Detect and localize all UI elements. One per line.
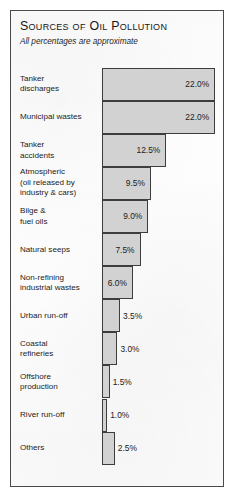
bar-value-label: 3.5% [123,311,142,321]
bar-value-label: 12.5% [137,145,161,155]
bar: 3.5% [102,299,120,332]
bar-row: Coastalrefineries3.0% [11,332,224,365]
bar-category-label: Atmospheric(oil released byindustry & ca… [20,168,100,199]
chart-title: Sources of Oil Pollution [20,19,167,33]
bar: 22.0% [102,68,215,101]
bar-category-label: Non-refiningindustrial wastes [20,272,100,293]
bar-value-label: 22.0% [185,79,209,89]
bar-row: Municipal wastes22.0% [11,101,224,134]
bar-row: Tankerdischarges22.0% [11,68,224,101]
chart-card: Sources of Oil Pollution All percentages… [10,10,224,487]
bar-value-label: 1.5% [113,377,132,387]
bar-value-label: 7.5% [115,245,134,255]
bar-row: Urban run-off3.5% [11,299,224,332]
bar: 12.5% [102,134,166,167]
bar: 9.0% [102,200,148,233]
bar: 9.5% [102,167,151,200]
bar-value-label: 22.0% [185,112,209,122]
bar-value-label: 3.0% [120,344,139,354]
bar-row: Offshoreproduction1.5% [11,365,224,398]
bar-category-label: Bilge &fuel oils [20,206,100,227]
bar: 1.5% [102,365,110,398]
bar-value-label: 1.0% [110,410,129,420]
bar-category-label: Natural seeps [20,244,100,254]
bar-row: Atmospheric(oil released byindustry & ca… [11,167,224,200]
bar-row: Others2.5% [11,432,224,465]
bar-value-label: 6.0% [108,278,127,288]
bar-category-label: Offshoreproduction [20,372,100,393]
chart-subtitle: All percentages are approximate [20,37,138,46]
bar-row: River run-off1.0% [11,399,224,432]
bar: 22.0% [102,101,215,134]
bar-category-label: Municipal wastes [20,112,100,122]
bar-category-label: Tankeraccidents [20,140,100,161]
bar-category-label: River run-off [20,410,100,420]
bar-row: Non-refiningindustrial wastes6.0% [11,266,224,299]
bar-value-label: 9.5% [126,178,145,188]
bar: 3.0% [102,332,117,365]
bar: 6.0% [102,266,133,299]
bar-value-label: 9.0% [123,211,142,221]
bar-category-label: Coastalrefineries [20,338,100,359]
bar-value-label: 2.5% [118,443,137,453]
bar-row: Tankeraccidents12.5% [11,134,224,167]
bar: 1.0% [102,399,107,432]
bar: 2.5% [102,432,115,465]
bar: 7.5% [102,233,141,266]
bar-row: Bilge &fuel oils9.0% [11,200,224,233]
bar-row: Natural seeps7.5% [11,233,224,266]
bar-chart-plot-area: Tankerdischarges22.0%Municipal wastes22.… [11,58,224,458]
bar-category-label: Others [20,443,100,453]
bar-category-label: Urban run-off [20,311,100,321]
bar-category-label: Tankerdischarges [20,74,100,95]
